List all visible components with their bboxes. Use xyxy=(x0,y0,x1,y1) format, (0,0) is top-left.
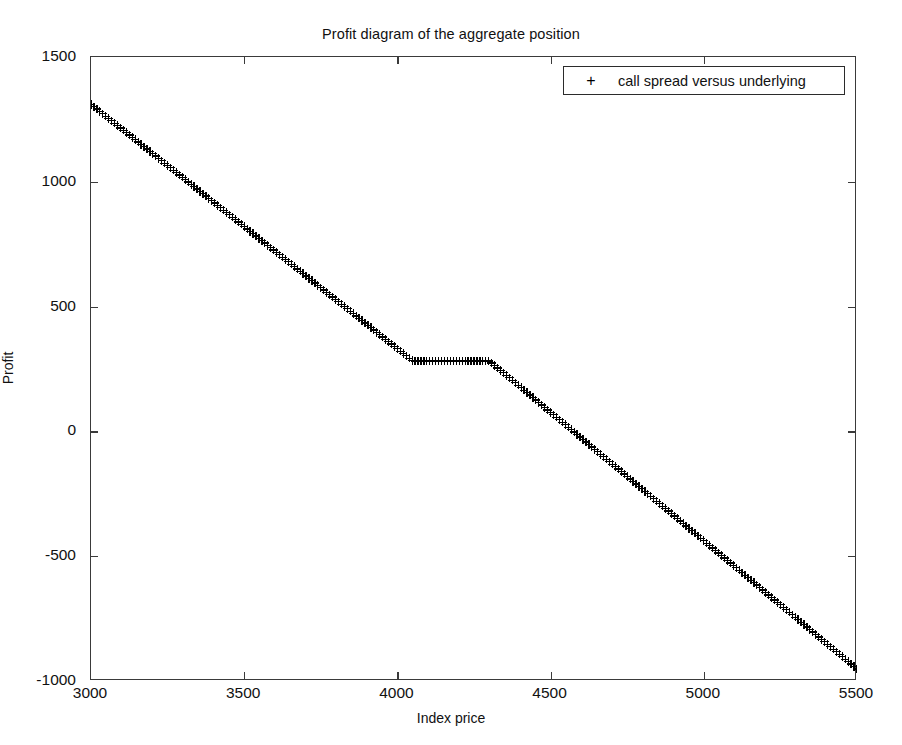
x-axis-tick xyxy=(551,57,552,64)
x-axis-tick xyxy=(397,57,398,64)
y-axis-tick xyxy=(848,431,855,432)
chart-figure: Profit diagram of the aggregate position… xyxy=(0,0,902,745)
legend-marker-plus-icon: + xyxy=(564,73,618,89)
legend-entry-label: call spread versus underlying xyxy=(618,73,806,89)
x-axis-tick xyxy=(397,672,398,679)
y-axis-tick-label: 500 xyxy=(50,297,76,315)
y-axis-tick xyxy=(848,307,855,308)
plot-area xyxy=(90,56,856,680)
x-axis-tick xyxy=(704,57,705,64)
legend-box: + call spread versus underlying xyxy=(563,66,845,95)
y-axis-tick-label: 1000 xyxy=(42,172,76,190)
y-axis-tick xyxy=(91,307,98,308)
y-axis-tick xyxy=(91,182,98,183)
chart-title: Profit diagram of the aggregate position xyxy=(0,26,902,42)
y-axis-tick-label: -1000 xyxy=(36,671,76,689)
y-axis-tick-label: -500 xyxy=(45,546,76,564)
x-axis-tick-label: 4500 xyxy=(532,684,566,702)
y-axis-label: Profit xyxy=(0,352,16,385)
x-axis-tick-label: 5000 xyxy=(686,684,720,702)
x-axis-tick-labels: 300035004000450050005500 xyxy=(90,684,856,712)
y-axis-tick-label: 1500 xyxy=(42,47,76,65)
y-axis-tick xyxy=(91,431,98,432)
x-axis-tick-label: 3500 xyxy=(226,684,260,702)
x-axis-tick xyxy=(551,672,552,679)
x-axis-tick xyxy=(244,672,245,679)
y-axis-tick-label: 0 xyxy=(67,421,76,439)
x-axis-tick xyxy=(704,672,705,679)
x-axis-label: Index price xyxy=(0,710,902,726)
data-series-plot xyxy=(91,57,857,681)
x-axis-tick xyxy=(244,57,245,64)
y-axis-tick xyxy=(848,556,855,557)
x-axis-tick-label: 5500 xyxy=(839,684,873,702)
x-axis-tick-label: 3000 xyxy=(73,684,107,702)
x-axis-tick-label: 4000 xyxy=(379,684,413,702)
y-axis-tick xyxy=(848,182,855,183)
y-axis-tick xyxy=(91,556,98,557)
